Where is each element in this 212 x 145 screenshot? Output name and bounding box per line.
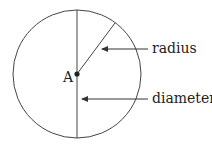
circle-diagram: A radius diameter [0,0,212,145]
diameter-label: diameter [152,90,212,106]
radius-arrowhead-icon [101,46,108,52]
diameter-arrowhead-icon [81,96,88,102]
center-label: A [62,69,74,85]
center-point [74,71,79,76]
radius-label: radius [152,40,197,56]
